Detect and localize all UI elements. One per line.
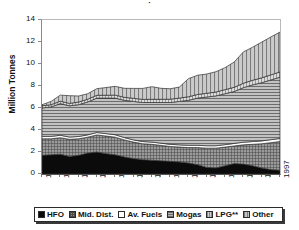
- legend-swatch-icon: [38, 211, 45, 218]
- y-tick-label: 0: [11, 169, 35, 177]
- legend-item-av-fuels[interactable]: Av. Fuels: [118, 210, 162, 219]
- x-tick-label: 1997: [283, 148, 291, 178]
- y-tick-label: 14: [11, 15, 35, 23]
- legend-item-hfo[interactable]: HFO: [38, 210, 64, 219]
- legend-swatch-icon: [243, 211, 250, 218]
- chart-legend[interactable]: HFOMid. Dist.Av. FuelsMogasLPG**Other: [34, 207, 283, 222]
- legend-item-mogas[interactable]: Mogas: [167, 210, 201, 219]
- y-tick-label: 6: [11, 103, 35, 111]
- legend-label: LPG**: [215, 210, 238, 219]
- legend-swatch-icon: [167, 211, 174, 218]
- legend-item-lpg[interactable]: LPG**: [206, 210, 238, 219]
- stacked-area-svg: [42, 20, 280, 174]
- legend-item-other[interactable]: Other: [243, 210, 273, 219]
- y-tick-label: 10: [11, 59, 35, 67]
- legend-label: HFO: [47, 210, 64, 219]
- legend-swatch-icon: [118, 211, 125, 218]
- y-tick-label: 12: [11, 37, 35, 45]
- legend-item-mid-dist[interactable]: Mid. Dist.: [69, 210, 114, 219]
- legend-label: Other: [252, 210, 273, 219]
- legend-swatch-icon: [206, 211, 213, 218]
- chart-title-stub: ·: [0, 0, 299, 8]
- chart-container: · Million Tonnes 02468101214 19711973197…: [0, 0, 299, 230]
- legend-label: Mid. Dist.: [78, 210, 114, 219]
- plot-area: [41, 19, 281, 175]
- legend-label: Mogas: [176, 210, 201, 219]
- y-tick-label: 8: [11, 81, 35, 89]
- legend-swatch-icon: [69, 211, 76, 218]
- y-tick-label: 2: [11, 147, 35, 155]
- legend-label: Av. Fuels: [127, 210, 162, 219]
- y-tick-label: 4: [11, 125, 35, 133]
